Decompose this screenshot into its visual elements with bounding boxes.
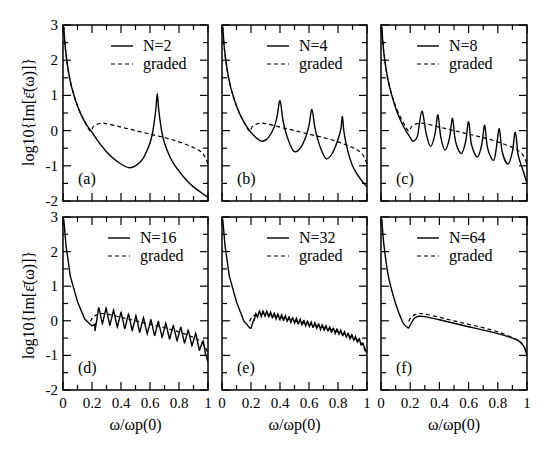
x-tick-label: 0.6 xyxy=(141,395,160,411)
y-tick-label: 3 xyxy=(51,209,59,225)
y-tick-label: 0 xyxy=(51,313,59,329)
x-tick-label: 0.8 xyxy=(329,395,348,411)
legend-label: graded xyxy=(143,55,187,73)
x-tick-label: 0.8 xyxy=(170,395,189,411)
legend-label: graded xyxy=(449,247,493,265)
x-tick-label: 0.6 xyxy=(300,395,319,411)
panel-tag: (e) xyxy=(237,359,255,377)
y-tick-label: 2 xyxy=(51,52,59,68)
legend-label: N=4 xyxy=(299,37,328,54)
y-axis-label-bottom: log10{Im[ε̄(ω)]} xyxy=(20,251,38,359)
x-tick-label: 1 xyxy=(523,395,531,411)
panel-tag: (d) xyxy=(78,359,97,377)
panel-f: N=64graded(f)00.20.40.60.81ω/ωp(0) xyxy=(377,217,531,434)
x-axis-label: ω/ωp(0) xyxy=(428,416,480,434)
x-tick-label: 0 xyxy=(59,395,67,411)
y-tick-label: 0 xyxy=(51,123,59,139)
x-tick-label: 0.4 xyxy=(112,395,131,411)
legend-label: N=2 xyxy=(143,37,172,54)
panel-a: N=2graded(a)-2-10123 xyxy=(46,17,209,209)
x-tick-label: 0.2 xyxy=(83,395,102,411)
x-tick-label: 0.4 xyxy=(430,395,449,411)
panel-d: N=16graded(d)-2-1012300.20.40.60.81ω/ωp(… xyxy=(46,209,212,434)
n-layer-curve xyxy=(223,27,367,187)
y-tick-label: 1 xyxy=(51,278,59,294)
legend-label: graded xyxy=(449,55,493,73)
x-tick-label: 0.6 xyxy=(459,395,478,411)
x-tick-label: 0 xyxy=(377,395,385,411)
n-layer-curve xyxy=(64,219,208,362)
panel-tag: (f) xyxy=(396,359,412,377)
panel-tag: (b) xyxy=(237,170,256,188)
graded-curve xyxy=(409,313,527,353)
legend-label: N=64 xyxy=(449,229,486,246)
n-layer-curve xyxy=(223,219,367,354)
panel-tag: (c) xyxy=(396,170,414,188)
x-tick-label: 0.2 xyxy=(242,395,261,411)
legend-label: N=32 xyxy=(299,229,336,246)
panel-e: N=32graded(e)00.20.40.60.81ω/ωp(0) xyxy=(218,217,371,434)
y-tick-label: -1 xyxy=(46,158,59,174)
x-tick-label: 1 xyxy=(363,395,371,411)
y-tick-label: -2 xyxy=(46,193,59,209)
legend-label: graded xyxy=(299,247,343,265)
panel-tag: (a) xyxy=(78,170,96,188)
y-tick-label: -2 xyxy=(46,382,59,398)
y-tick-label: -1 xyxy=(46,347,59,363)
legend-label: graded xyxy=(140,247,184,265)
y-tick-label: 3 xyxy=(51,17,59,33)
x-tick-label: 0.8 xyxy=(488,395,507,411)
legend-label: graded xyxy=(299,55,343,73)
x-tick-label: 0 xyxy=(218,395,226,411)
panel-b: N=4graded(b) xyxy=(222,25,367,201)
x-axis-label: ω/ωp(0) xyxy=(268,416,320,434)
x-axis-label: ω/ωp(0) xyxy=(109,416,161,434)
legend-label: N=8 xyxy=(449,37,478,54)
graded-curve xyxy=(250,313,367,353)
x-tick-label: 0.4 xyxy=(271,395,290,411)
x-tick-label: 0.2 xyxy=(401,395,420,411)
y-tick-label: 1 xyxy=(51,87,59,103)
y-axis-label-top: log10{Im[ε̄(ω)]} xyxy=(20,58,38,166)
legend-label: N=16 xyxy=(140,229,177,246)
figure: log10{Im[ε̄(ω)]} log10{Im[ε̄(ω)]} N=2gra… xyxy=(0,0,549,455)
x-tick-label: 1 xyxy=(204,395,212,411)
y-tick-label: 2 xyxy=(51,244,59,260)
graded-curve xyxy=(64,27,208,164)
panel-c: N=8graded(c) xyxy=(381,25,527,201)
